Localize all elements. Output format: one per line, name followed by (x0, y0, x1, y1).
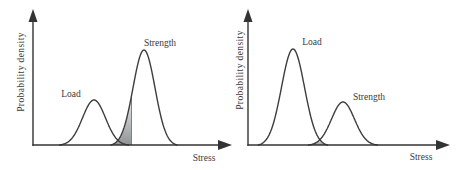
left-y-axis-arrowhead-icon (29, 9, 38, 22)
right-load-curve (259, 49, 328, 145)
right-strength-label: Strength (353, 92, 385, 102)
figure-canvas: Load Strength Stress Probability density… (0, 0, 469, 170)
left-strength-curve (111, 50, 177, 145)
left-x-axis-arrowhead-icon (218, 140, 232, 150)
stress-strength-interference-figure: Load Strength Stress Probability density… (0, 0, 469, 170)
right-x-axis-label: Stress (410, 152, 433, 162)
right-y-axis-label: Probability density (235, 30, 245, 110)
left-x-axis-label: Stress (193, 153, 216, 163)
left-strength-label: Strength (144, 38, 176, 48)
left-interference-shade-region (111, 96, 132, 145)
left-load-curve (60, 100, 129, 145)
right-load-label: Load (302, 37, 322, 47)
left-panel: Load Strength Stress Probability density (16, 9, 232, 163)
right-panel: Load Strength Stress Probability density (235, 9, 450, 162)
left-load-label: Load (61, 89, 81, 99)
left-y-axis-label: Probability density (16, 32, 26, 112)
right-y-axis-arrowhead-icon (244, 9, 253, 22)
right-x-axis-arrowhead-icon (436, 140, 450, 150)
